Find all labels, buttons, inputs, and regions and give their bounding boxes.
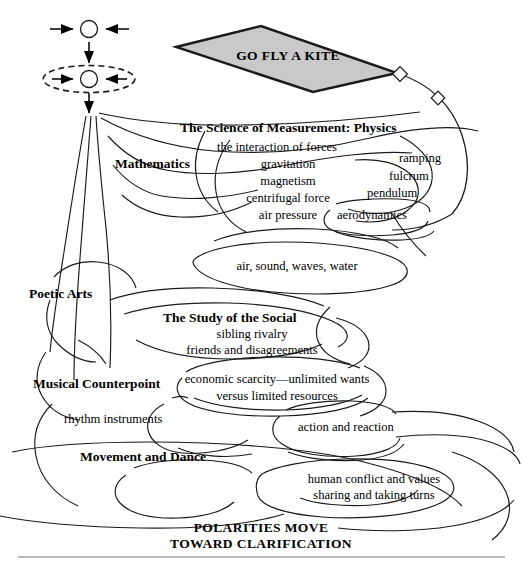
branch-label-social[interactable]: The Study of the Social <box>163 311 297 326</box>
item-centrifugal-force: centrifugal force <box>246 192 330 206</box>
item-interaction-of-forces: the interaction of forces <box>217 141 337 155</box>
branch-label-physics[interactable]: The Science of Measurement: Physics <box>180 121 396 136</box>
branch-stems <box>50 116 111 380</box>
kite-banner-label: GO FLY A KITE <box>236 49 340 64</box>
item-economic-scarcity: economic scarcity—unlimited wants <box>185 373 370 387</box>
item-sharing-and-taking-turns: sharing and taking turns <box>313 489 434 503</box>
branch-label-poetic-arts[interactable]: Poetic Arts <box>29 287 92 302</box>
item-action-and-reaction: action and reaction <box>298 421 394 435</box>
item-versus-limited-resources: versus limited resources <box>216 390 338 404</box>
item-sibling-rivalry: sibling rivalry <box>216 328 287 342</box>
branch-label-mathematics[interactable]: Mathematics <box>115 157 190 172</box>
item-air-pressure: air pressure <box>259 209 317 223</box>
polarity-symbol-group <box>43 21 135 114</box>
item-air-sound-waves-water: air, sound, waves, water <box>236 260 357 274</box>
item-friends-and-disagreements: friends and disagreements <box>186 344 318 358</box>
branch-label-movement-and-dance[interactable]: Movement and Dance <box>80 450 206 465</box>
item-magnetism: magnetism <box>260 175 315 189</box>
item-human-conflict-and-values: human conflict and values <box>308 473 441 487</box>
branch-label-musical-counterpoint[interactable]: Musical Counterpoint <box>33 377 160 392</box>
diagram-canvas: GO FLY A KITE Mathematics The Science of… <box>0 0 522 571</box>
item-gravitation: gravitation <box>261 158 316 172</box>
footer-line-2: TOWARD CLARIFICATION <box>170 537 352 552</box>
item-aerodynamics: aerodynamics <box>337 209 407 223</box>
item-ramping: ramping <box>399 152 441 166</box>
item-rhythm-instruments: rhythm instruments <box>64 413 162 427</box>
item-fulcrum: fulcrum <box>389 170 429 184</box>
item-pendulum: pendulum <box>367 187 417 201</box>
footer-line-1: POLARITIES MOVE <box>194 521 329 536</box>
